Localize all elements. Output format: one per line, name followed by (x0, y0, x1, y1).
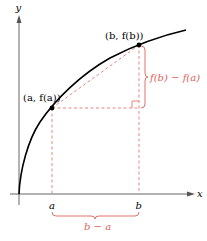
point-b (137, 43, 142, 48)
vertical-bracket-label: f(b) − f(a) (149, 72, 200, 83)
horizontal-bracket-label: b − a (84, 221, 111, 232)
function-curve (19, 30, 186, 194)
point-b-label: (b, f(b)) (105, 30, 144, 41)
right-angle-marker (132, 101, 139, 108)
x-axis-arrow-icon (187, 192, 195, 197)
vertical-brace-icon (141, 46, 148, 108)
y-axis-label: y (15, 2, 22, 13)
horizontal-brace-icon (52, 212, 139, 219)
tick-a-label: a (49, 200, 55, 211)
point-a (50, 106, 55, 111)
diagram-figure: y x (a, f(a)) (b, f(b)) f(b) − f(a) a b … (0, 0, 207, 241)
secant-line (52, 45, 139, 108)
point-a-label: (a, f(a)) (23, 92, 61, 103)
x-axis-label: x (197, 188, 203, 199)
x-axis (10, 192, 195, 197)
y-axis-arrow-icon (17, 15, 22, 23)
tick-b-label: b (136, 200, 142, 211)
